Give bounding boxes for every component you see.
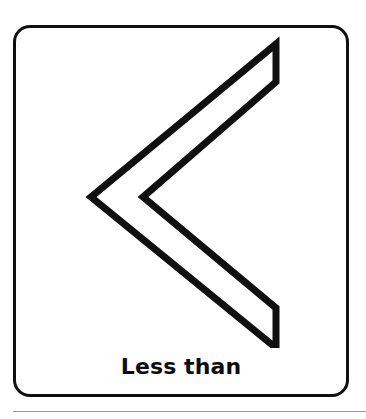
chevron-outline-path — [91, 44, 276, 348]
symbol-area — [16, 28, 352, 348]
symbol-card-page: Less than — [0, 0, 366, 419]
less-than-symbol-icon — [16, 28, 352, 348]
bottom-separator-rule — [13, 411, 366, 412]
less-than-card: Less than — [13, 25, 349, 397]
card-caption: Less than — [16, 354, 346, 380]
